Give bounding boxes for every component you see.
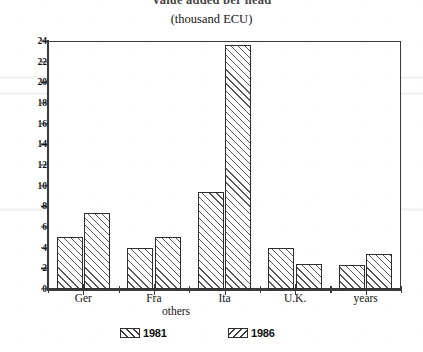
legend-item-1986[interactable]: 1986 [228,327,275,339]
x-tick-label-ita: Ita [218,292,230,304]
x-group-separator-tick [189,286,190,293]
bar-years-1986 [366,254,392,289]
y-axis-ticks: 024681012141618202224 [0,0,47,352]
bar-uk-1986 [296,264,322,289]
legend-label-1986: 1986 [251,327,275,339]
y-tick-label: 2 [21,263,47,273]
bar-years-1981 [339,265,365,289]
x-axis-label: others [162,305,190,317]
legend-swatch-icon-1981 [120,328,140,338]
bar-ger-1981 [57,237,83,289]
bars-layer [48,41,401,289]
bar-ger-1986 [84,213,110,289]
legend-item-1981[interactable]: 1981 [120,327,167,339]
y-tick-label: 12 [21,160,47,170]
y-tick-label: 14 [21,139,47,149]
y-tick-label: 8 [21,201,47,211]
x-tick-label-ger: Ger [75,292,92,304]
x-group-separator-tick [48,286,49,293]
bar-fra-1986 [155,237,181,289]
legend-swatch-icon-1986 [228,328,248,338]
x-tick-label-years: years [354,292,378,304]
y-tick-label: 0 [21,284,47,294]
chart-subtitle-units: (thousand ECU) [0,12,423,27]
chart-title: Value added per head [0,0,423,4]
x-group-separator-tick [119,286,120,293]
y-tick-label: 20 [21,77,47,87]
y-tick-label: 24 [21,36,47,46]
y-tick-label: 22 [21,57,47,67]
bar-uk-1981 [268,248,294,289]
x-tick-label-fra: Fra [146,292,161,304]
y-tick-label: 4 [21,243,47,253]
bar-ita-1986 [225,45,251,289]
bar-chart-figure: Value added per head (thousand ECU) 0246… [0,0,423,352]
x-tick-label-uk: U.K. [284,292,306,304]
bar-fra-1981 [127,248,153,289]
y-tick-label: 10 [21,181,47,191]
x-group-separator-tick [260,286,261,293]
legend-label-1981: 1981 [143,327,167,339]
y-tick-label: 16 [21,119,47,129]
y-tick-label: 18 [21,98,47,108]
chart-legend: 1981 1986 [0,327,423,345]
x-group-separator-tick [330,286,331,293]
y-tick-label: 6 [21,222,47,232]
x-group-separator-tick [401,286,402,293]
bar-ita-1981 [198,192,224,289]
